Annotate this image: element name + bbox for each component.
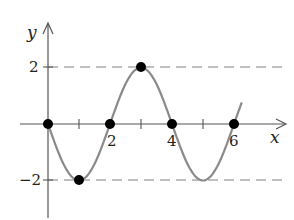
y-tick-label-neg2: −2 [19,171,41,189]
x-axis-label: x [270,127,280,147]
x-tick-label-2: 2 [107,132,117,150]
point-4-0 [167,119,177,129]
x-tick-label-6: 6 [229,132,239,150]
point-1-neg2 [74,175,84,185]
x-tick-label-4: 4 [167,132,177,150]
point-6-0 [229,119,239,129]
point-0-0 [43,119,53,129]
problem-number-fragment: 31. [14,0,36,1]
y-tick-label-2: 2 [29,58,39,76]
point-2-0 [105,119,115,129]
y-axis-label: y [26,22,37,42]
sine-graph: 31. y x 2 4 6 2 −2 [0,0,294,220]
point-3-2 [136,62,146,72]
